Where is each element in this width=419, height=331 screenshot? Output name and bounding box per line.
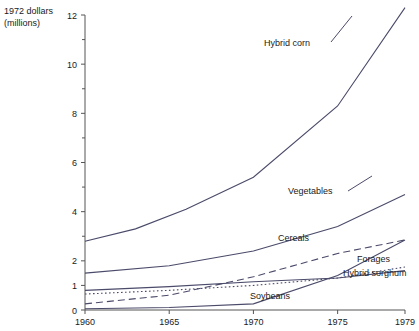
y-tick-label: 6 xyxy=(72,158,77,168)
series-leader-line xyxy=(331,16,352,42)
series-label-hybrid-sorghum: Hybrid sorghum xyxy=(343,268,407,278)
chart-container: 0124681012196019651970197519791972 dolla… xyxy=(0,0,419,331)
x-tick-label: 1965 xyxy=(159,317,179,327)
y-tick-label: 12 xyxy=(67,11,77,21)
y-tick-label: 8 xyxy=(72,109,77,119)
y-tick-label: 10 xyxy=(67,60,77,70)
y-axis-title-line2: (millions) xyxy=(4,18,40,28)
y-tick-label: 0 xyxy=(72,306,77,316)
series-label-soybeans: Soybeans xyxy=(250,291,291,301)
x-tick-label: 1975 xyxy=(328,317,348,327)
series-label-cereals: Cereals xyxy=(278,233,310,243)
y-tick-label: 1 xyxy=(72,281,77,291)
line-chart: 0124681012196019651970197519791972 dolla… xyxy=(0,0,419,331)
y-axis-title-line1: 1972 dollars xyxy=(4,6,54,16)
y-tick-label: 4 xyxy=(72,207,77,217)
series-label-hybrid-corn: Hybrid corn xyxy=(264,38,310,48)
y-tick-label: 2 xyxy=(72,256,77,266)
series-leader-line xyxy=(348,176,372,191)
x-tick-label: 1979 xyxy=(395,317,415,327)
series-label-forages: Forages xyxy=(357,254,391,264)
x-tick-label: 1970 xyxy=(243,317,263,327)
series-line-hybrid-corn xyxy=(85,8,405,242)
x-tick-label: 1960 xyxy=(75,317,95,327)
series-label-vegetables: Vegetables xyxy=(288,186,333,196)
